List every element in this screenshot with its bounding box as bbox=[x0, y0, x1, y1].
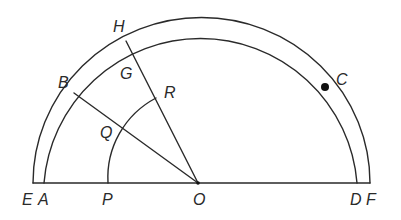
segment-ob bbox=[74, 93, 198, 183]
label-q: Q bbox=[100, 124, 112, 141]
label-a: A bbox=[37, 191, 49, 208]
label-f: F bbox=[366, 191, 377, 208]
point-c-dot bbox=[321, 83, 329, 91]
label-c: C bbox=[336, 71, 348, 88]
label-e: E bbox=[22, 191, 33, 208]
label-r: R bbox=[164, 84, 176, 101]
label-g: G bbox=[120, 65, 132, 82]
label-b: B bbox=[58, 74, 69, 91]
inner-arc-abcd bbox=[44, 39, 357, 183]
label-o: O bbox=[193, 191, 205, 208]
label-h: H bbox=[113, 18, 125, 35]
point-o-dot bbox=[196, 181, 200, 185]
label-d: D bbox=[350, 191, 362, 208]
label-p: P bbox=[102, 191, 113, 208]
small-arc-pqr bbox=[108, 98, 156, 183]
geometric-diagram: E A P O D F B Q H G R C bbox=[0, 0, 401, 220]
